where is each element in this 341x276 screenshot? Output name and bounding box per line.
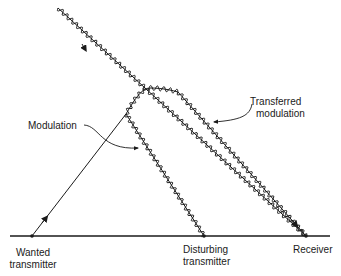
disturbing-transmitter-label-line1: Disturbing [183, 244, 228, 256]
modulated-waves [57, 8, 307, 237]
diagram-canvas [0, 0, 341, 276]
wanted-signal-arrow [42, 218, 46, 223]
modulation-leader [84, 125, 138, 148]
incoming-wave-arrow [82, 44, 85, 49]
transferred-modulation-label-line1: Transferred [250, 96, 301, 108]
disturbing-transmitter-label-line2: transmitter [183, 256, 230, 268]
disturbing-wave-to-transmitter-baseline [126, 114, 204, 236]
wanted-transmitter-label-line1: Wanted [13, 247, 53, 259]
wanted-signal-upgoing [32, 114, 126, 236]
receiver-label: Receiver [293, 244, 332, 256]
transferred-modulation-label-line2: modulation [256, 108, 305, 120]
transferred-modulation-leader [214, 104, 252, 122]
modulation-label: Modulation [28, 120, 77, 132]
wanted-transmitter-label-line2: transmitter [4, 259, 62, 271]
